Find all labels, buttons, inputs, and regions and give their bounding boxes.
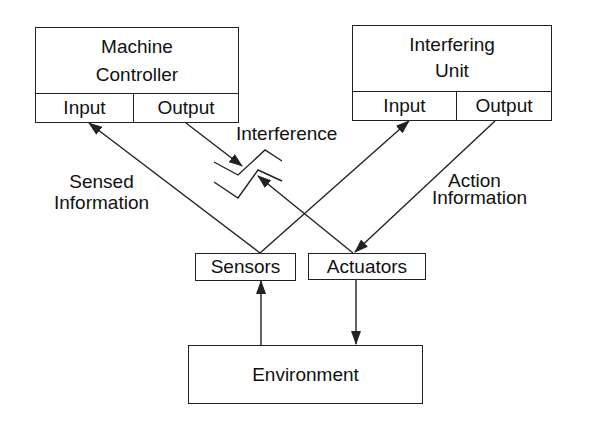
controller-output-to-interference-arrow [186, 123, 242, 166]
machine-controller-ports: Input Output [36, 93, 238, 122]
actuators-label: Actuators [309, 254, 425, 279]
machine-controller-title: Machine Controller [36, 36, 238, 86]
interference-label: Interference [236, 123, 337, 144]
machine-controller-box: Machine Controller Input Output [35, 27, 239, 123]
action-information-label: Action Information [432, 172, 527, 206]
machine-controller-output: Output [134, 94, 238, 122]
environment-box: Environment [188, 345, 423, 404]
machine-controller-input: Input [36, 94, 134, 122]
sensors-label: Sensors [196, 254, 295, 280]
sensed-information-label: Sensed Information [54, 171, 149, 213]
interfering-unit-ports: Input Output [353, 91, 551, 120]
interfering-unit-box: Interfering Unit Input Output [352, 25, 552, 121]
environment-label: Environment [189, 346, 422, 403]
sensors-box: Sensors [195, 253, 296, 281]
machine-controller-title-line2: Controller [36, 64, 238, 86]
machine-controller-title-line1: Machine [36, 36, 238, 58]
interference-zigzag-lower [214, 170, 282, 198]
interfering-unit-output: Output [457, 92, 551, 120]
interfering-unit-title: Interfering Unit [353, 34, 551, 82]
interfering-unit-title-line2: Unit [353, 60, 551, 82]
sensed-information-line2: Information [54, 192, 149, 213]
actuators-box: Actuators [308, 253, 426, 280]
interfering-unit-input: Input [353, 92, 457, 120]
sensed-information-line1: Sensed [54, 171, 149, 192]
action-information-line2: Information [432, 189, 527, 206]
interfering-unit-title-line1: Interfering [353, 34, 551, 56]
interference-zigzag-upper [214, 150, 282, 175]
